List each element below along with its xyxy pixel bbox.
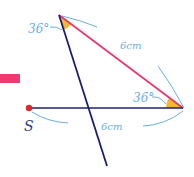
side-top-to-right (59, 15, 183, 108)
side-label-pink: 6cm (120, 40, 141, 51)
angle-label-top: 36° (28, 22, 49, 36)
side-label-base: 6cm (101, 121, 122, 132)
slanted-line (59, 15, 107, 166)
point-s-dot (26, 105, 32, 111)
angle-label-right: 36° (133, 91, 154, 105)
leader-top (50, 27, 62, 30)
geometry-diagram: 36° 36° 6cm 6cm S (0, 0, 194, 177)
point-label-s: S (24, 118, 34, 134)
pink-arrow-marker (0, 74, 20, 83)
construction-arc-s (32, 112, 68, 123)
construction-arc-base (143, 111, 183, 126)
